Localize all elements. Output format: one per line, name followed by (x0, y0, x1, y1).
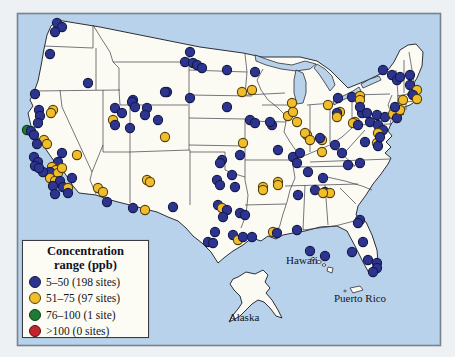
site-dot-b (333, 93, 342, 102)
legend-entry-label: 76–100 (1 site) (46, 309, 116, 321)
site-dot-b (368, 267, 377, 276)
legend-entry-label: 51–75 (97 sites) (46, 292, 120, 304)
site-dot-b (353, 120, 362, 129)
site-dot-y (332, 112, 341, 121)
site-dot-b (153, 115, 162, 124)
site-dot-b (222, 102, 231, 111)
site-dot-b (240, 210, 249, 219)
site-dot-y (258, 185, 267, 194)
hawaii-label: Hawaii (286, 254, 318, 266)
site-dot-b (160, 87, 169, 96)
legend: Concentration range (ppb) 5–50 (198 site… (22, 240, 149, 338)
site-dot-y (317, 147, 326, 156)
site-dot-b (292, 158, 301, 167)
site-dot-b (250, 67, 259, 76)
legend-entry-label: 5–50 (198 sites) (46, 276, 120, 288)
site-dot-b (230, 182, 239, 191)
legend-dot-green (29, 309, 41, 321)
site-dot-y (318, 188, 327, 197)
site-dot-b (250, 118, 259, 127)
site-dot-b (117, 108, 126, 117)
site-dot-b (390, 102, 399, 111)
site-dot-b (405, 70, 414, 79)
site-dot-y (287, 98, 296, 107)
site-dot-y (57, 163, 66, 172)
site-dot-y (292, 117, 301, 126)
site-dot-b (318, 173, 327, 182)
site-dot-b (363, 255, 372, 264)
site-dot-b (102, 197, 111, 206)
site-dot-y (160, 132, 169, 141)
legend-entry-label: >100 (0 sites) (46, 325, 109, 337)
site-dot-b (373, 141, 382, 150)
site-dot-b (215, 180, 224, 189)
site-dot-b (50, 27, 59, 36)
site-dot-b (185, 47, 194, 56)
site-dot-b (140, 110, 149, 119)
site-dot-b (185, 93, 194, 102)
site-dot-b (110, 120, 119, 129)
legend-entry: 5–50 (198 sites) (29, 275, 148, 289)
legend-dot-blue (29, 276, 41, 288)
site-dot-y (238, 138, 247, 147)
legend-title-line1: Concentration (23, 244, 148, 258)
site-dot-b (235, 150, 244, 159)
site-dot-b (295, 148, 304, 157)
site-dot-y (305, 135, 314, 144)
site-dot-b (32, 139, 41, 148)
site-dot-y (46, 108, 55, 117)
site-dot-b (355, 158, 364, 167)
site-dot-b (45, 49, 54, 58)
site-dot-b (343, 160, 352, 169)
site-dot-b (273, 145, 282, 154)
legend-entry: 76–100 (1 site) (29, 308, 148, 322)
site-dot-b (347, 247, 356, 256)
site-dot-b (265, 117, 274, 126)
site-dot-b (378, 65, 387, 74)
site-dot-b (303, 167, 312, 176)
site-dot-b (293, 190, 302, 199)
legend-dot-yellow (29, 292, 41, 304)
site-dot-b (63, 188, 72, 197)
site-dot-y (247, 85, 256, 94)
site-dot-b (222, 65, 231, 74)
site-dot-b (210, 227, 219, 236)
site-dot-b (315, 133, 324, 142)
site-dot-b (247, 232, 256, 241)
site-dot-y (237, 87, 246, 96)
site-dot-y (398, 95, 407, 104)
site-dot-b (375, 132, 384, 141)
site-dot-b (197, 63, 206, 72)
site-dot-y (98, 187, 107, 196)
site-dot-b (34, 163, 43, 172)
site-dot-b (29, 130, 38, 139)
site-dot-b (128, 203, 137, 212)
site-dot-b (57, 148, 66, 157)
site-dot-b (395, 72, 404, 81)
site-dot-y (145, 177, 154, 186)
legend-dot-red (29, 325, 41, 337)
site-dot-y (412, 94, 421, 103)
site-dot-b (83, 78, 92, 87)
site-dot-b (33, 118, 42, 127)
legend-title-line2: range (ppb) (23, 258, 148, 272)
site-dot-b (67, 173, 76, 182)
site-dot-b (360, 137, 369, 146)
site-dot-b (125, 123, 134, 132)
site-dot-b (355, 102, 364, 111)
site-dot-b (292, 225, 301, 234)
site-dot-b (215, 158, 224, 167)
site-dot-b (358, 237, 367, 246)
site-dot-b (238, 232, 247, 241)
legend-title: Concentration range (ppb) (23, 244, 148, 272)
site-dot-b (130, 102, 139, 111)
alaska-label: Alaska (229, 311, 260, 323)
site-dot-b (353, 218, 362, 227)
site-dot-b (50, 189, 59, 198)
site-dot-y (323, 100, 332, 109)
site-dot-y (42, 139, 51, 148)
puerto-rico-label: Puerto Rico (334, 292, 387, 304)
site-dot-y (72, 150, 81, 159)
site-dot-b (218, 212, 227, 221)
site-dot-y (140, 205, 149, 214)
